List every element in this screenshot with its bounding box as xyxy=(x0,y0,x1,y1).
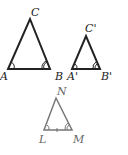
label-c: C xyxy=(31,6,40,19)
label-c-prime: C' xyxy=(85,22,96,35)
triangle-diagram: C A B C' A' B' N L M xyxy=(0,0,128,155)
label-m: M xyxy=(72,133,85,146)
label-b: B xyxy=(54,70,63,83)
triangle-abc xyxy=(8,19,50,69)
label-n: N xyxy=(56,85,67,98)
label-a-prime: A' xyxy=(66,70,78,83)
label-b-prime: B' xyxy=(100,70,112,83)
triangle-a-prime-b-prime-c-prime xyxy=(72,36,100,69)
triangle-lmn xyxy=(44,98,72,132)
figure: C A B C' A' B' N L M xyxy=(0,0,128,155)
label-l: L xyxy=(38,133,46,146)
label-a: A xyxy=(0,70,8,83)
